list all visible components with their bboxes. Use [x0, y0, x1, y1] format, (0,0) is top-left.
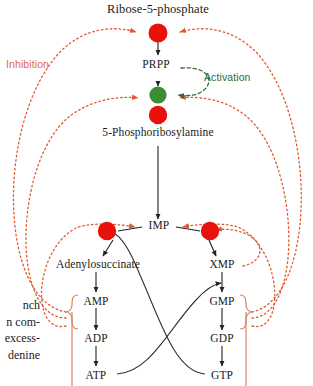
label-gtp: GTP	[211, 369, 233, 381]
side-note-line-1: nch	[0, 297, 40, 314]
side-note-line-2: n com-	[0, 314, 40, 331]
legend-inhibition-label: Inhibition	[6, 58, 49, 70]
cross-regulation-curves	[115, 234, 221, 374]
label-imp: IMP	[149, 219, 170, 231]
inhibition-node-amidotransferase	[149, 106, 167, 124]
side-note-line-3: excess-	[0, 330, 40, 347]
label-xmp: XMP	[209, 258, 234, 270]
side-note-line-4: denine	[0, 347, 40, 364]
label-gdp: GDP	[210, 332, 233, 344]
label-prpp: PRPP	[142, 58, 169, 70]
pathway-diagram: Ribose-5-phosphate PRPP 5-Phosphoribosyl…	[0, 0, 313, 386]
label-gmp: GMP	[209, 295, 234, 307]
label-adp: ADP	[84, 332, 107, 344]
inhibition-node-imp-dehydrogenase	[201, 222, 219, 240]
activation-node-glutamine-prpp-amidotransferase	[149, 86, 166, 103]
inhibition-arcs-left	[13, 29, 138, 327]
label-adenylosuccinate: Adenylosuccinate	[56, 258, 140, 270]
inhibition-node-adenylosuccinate-synthetase	[98, 222, 116, 240]
side-note-text: nch n com- excess- denine	[0, 297, 40, 363]
label-5-phosphoribosylamine: 5-Phosphoribosylamine	[102, 126, 213, 138]
legend-activation-label: Activation	[204, 71, 251, 83]
label-ribose-5-phosphate: Ribose-5-phosphate	[107, 2, 209, 17]
label-amp: AMP	[83, 295, 108, 307]
inhibition-node-prpp-synthetase	[149, 24, 168, 43]
label-atp: ATP	[86, 369, 107, 381]
